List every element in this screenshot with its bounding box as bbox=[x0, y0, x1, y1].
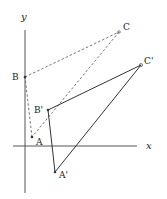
label-C: C bbox=[123, 22, 130, 32]
point-C bbox=[118, 31, 121, 34]
edge-B'C' bbox=[48, 65, 141, 110]
label-A-prime: A' bbox=[58, 170, 68, 180]
vertices bbox=[24, 31, 143, 174]
y-axis-label: y bbox=[20, 11, 27, 22]
edge-CA bbox=[32, 32, 119, 137]
edge-AB bbox=[25, 77, 32, 137]
point-A-prime bbox=[54, 171, 57, 174]
image-triangle bbox=[48, 65, 141, 172]
x-axis-label: x bbox=[146, 140, 152, 151]
label-B: B bbox=[12, 72, 19, 82]
edge-C'A' bbox=[55, 65, 141, 172]
point-B-prime bbox=[47, 109, 50, 112]
label-B-prime: B' bbox=[34, 105, 43, 115]
edge-A'B' bbox=[48, 110, 55, 172]
point-B bbox=[24, 76, 27, 79]
point-A bbox=[31, 136, 34, 139]
transformation-diagram: y x A B C A' B' C' bbox=[0, 0, 167, 199]
edge-BC bbox=[25, 32, 119, 77]
label-C-prime: C' bbox=[144, 56, 153, 66]
original-triangle bbox=[25, 32, 119, 137]
label-A: A bbox=[35, 137, 43, 147]
